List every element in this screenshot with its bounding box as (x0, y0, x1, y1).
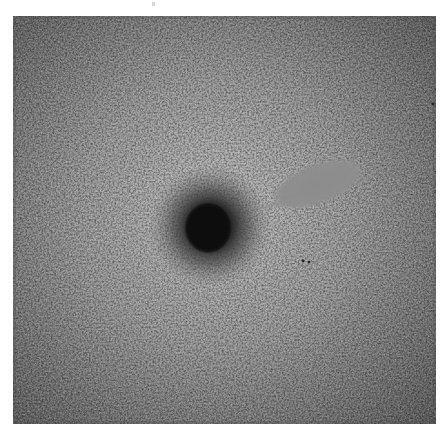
scan-artifact (152, 2, 155, 6)
dark-spot (148, 164, 272, 288)
micrograph-canvas (13, 16, 436, 424)
micrograph-image (13, 16, 436, 424)
